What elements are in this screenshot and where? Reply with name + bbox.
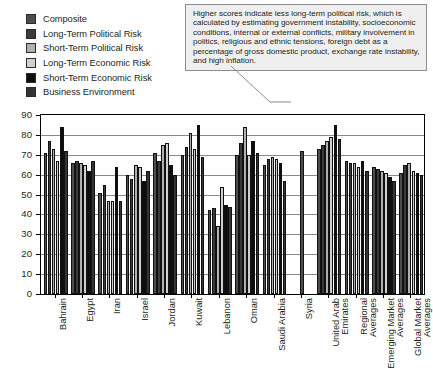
- bar: [216, 226, 220, 294]
- bar: [416, 173, 420, 294]
- bar-group: [44, 115, 68, 294]
- y-axis-tick-label: 90: [21, 110, 32, 120]
- chart-legend: Composite Long-Term Political Risk Short…: [26, 12, 206, 100]
- bar: [119, 201, 123, 294]
- bar: [165, 143, 169, 294]
- bar: [267, 159, 271, 294]
- legend-item: Composite: [26, 12, 206, 27]
- bar: [380, 171, 384, 294]
- bar: [185, 147, 189, 294]
- x-axis-tick-mark: [164, 294, 165, 298]
- bar: [349, 163, 353, 294]
- x-axis-tick-mark: [55, 294, 56, 298]
- bar: [197, 125, 201, 294]
- x-axis-tick-mark: [356, 294, 357, 298]
- legend-label: Short-Term Political Risk: [43, 43, 143, 53]
- x-axis-tick-label: Kuwait: [195, 298, 205, 326]
- y-axis-tick-label: 60: [21, 170, 32, 180]
- bar: [235, 155, 239, 294]
- bar: [142, 181, 146, 294]
- x-axis-tick-label: RegionalAverages: [360, 298, 379, 337]
- bar: [353, 163, 357, 294]
- x-axis-tick-mark: [328, 294, 329, 298]
- x-axis-tick-label: Iran: [113, 298, 123, 314]
- bar: [239, 143, 243, 294]
- bar: [44, 153, 48, 294]
- annotation-callout: Higher scores indicate less long-term po…: [185, 4, 427, 71]
- bar-group: [98, 115, 122, 294]
- y-axis-tick-label: 10: [21, 269, 32, 279]
- x-axis-tick-mark: [191, 294, 192, 298]
- bar: [283, 181, 287, 294]
- bar: [161, 145, 165, 294]
- y-axis-tick-label: 40: [21, 210, 32, 220]
- bar: [103, 185, 107, 294]
- legend-item: Short-Term Economic Risk: [26, 70, 206, 85]
- bar: [334, 125, 338, 294]
- bar: [157, 161, 161, 294]
- legend-swatch-business-environment: [26, 87, 36, 97]
- bar: [361, 161, 365, 294]
- legend-label: Short-Term Economic Risk: [43, 73, 152, 83]
- bar: [201, 157, 205, 294]
- legend-label: Composite: [43, 14, 87, 24]
- x-axis-tick-label: Jordan: [168, 298, 178, 326]
- legend-swatch-composite: [26, 14, 36, 24]
- legend-swatch-short-term-political-risk: [26, 43, 36, 53]
- y-axis-tick-label: 70: [21, 150, 32, 160]
- x-axis-tick-label: Emerging MarketAverages: [387, 298, 406, 369]
- bar-group: [153, 115, 177, 294]
- bar: [372, 167, 376, 294]
- bar: [126, 175, 130, 294]
- bar: [300, 151, 304, 294]
- legend-swatch-long-term-economic-risk: [26, 58, 36, 68]
- x-axis-tick-label: Syria: [305, 298, 315, 319]
- bar: [52, 149, 56, 294]
- bar: [243, 127, 247, 294]
- bar: [138, 167, 142, 294]
- bar: [48, 141, 52, 294]
- y-axis-tick-label: 20: [21, 249, 32, 259]
- annotation-callout-text: Higher scores indicate less long-term po…: [193, 9, 420, 65]
- legend-swatch-long-term-political-risk: [26, 29, 36, 39]
- bar: [275, 159, 279, 294]
- x-axis-tick-label: Lebanon: [223, 298, 233, 334]
- bar: [256, 153, 260, 294]
- bar: [181, 155, 185, 294]
- bar: [279, 163, 283, 294]
- y-axis-tick-label: 30: [21, 230, 32, 240]
- x-axis-tick-mark: [82, 294, 83, 298]
- bar: [83, 165, 87, 294]
- bar: [130, 179, 134, 294]
- bar: [338, 139, 342, 294]
- x-axis-tick-label: Saudi Arabia: [278, 298, 288, 351]
- bar-group: [399, 115, 423, 294]
- bar: [56, 161, 60, 294]
- legend-item: Business Environment: [26, 85, 206, 100]
- bar: [71, 163, 75, 294]
- y-axis: 0102030405060708090: [0, 114, 36, 295]
- bar: [146, 171, 150, 294]
- legend-item: Long-Term Political Risk: [26, 27, 206, 42]
- bar: [271, 157, 275, 294]
- bar: [134, 165, 138, 294]
- bar: [189, 133, 193, 294]
- bar-group: [263, 115, 287, 294]
- y-axis-tick-label: 80: [21, 130, 32, 140]
- bar: [392, 181, 396, 294]
- bars-container: [41, 115, 424, 294]
- bar: [345, 161, 349, 294]
- x-axis-tick-label: Egypt: [86, 298, 96, 322]
- bar: [111, 201, 115, 294]
- legend-swatch-short-term-economic-risk: [26, 73, 36, 83]
- x-axis-tick-mark: [383, 294, 384, 298]
- x-axis-tick-mark: [109, 294, 110, 298]
- x-axis-tick-label: Oman: [250, 298, 260, 323]
- bar: [220, 187, 224, 294]
- y-axis-tick-label: 50: [21, 190, 32, 200]
- x-axis: BahrainEgyptIranIsraelJordanKuwaitLebano…: [41, 298, 424, 378]
- bar-group: [126, 115, 150, 294]
- bar: [407, 163, 411, 294]
- bar: [212, 208, 216, 294]
- bar: [60, 127, 64, 294]
